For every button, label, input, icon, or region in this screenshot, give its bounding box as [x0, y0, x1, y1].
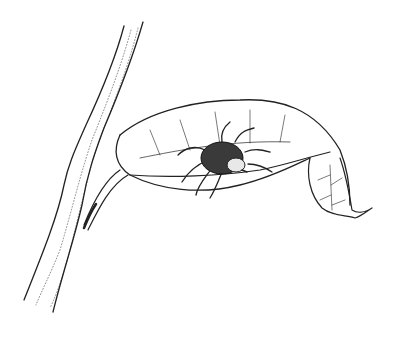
leaf-petiole: [84, 170, 128, 230]
stem: [24, 22, 143, 312]
leaf: [116, 100, 372, 218]
tick-on-leaf-illustration: [0, 0, 397, 355]
tick: [178, 122, 272, 198]
illustration-canvas: [0, 0, 397, 355]
